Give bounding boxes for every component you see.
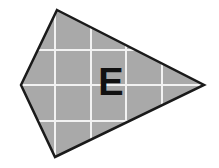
shape-label-E: E <box>98 61 123 103</box>
figure-canvas: E <box>0 0 219 168</box>
figure-svg: E <box>0 0 219 168</box>
